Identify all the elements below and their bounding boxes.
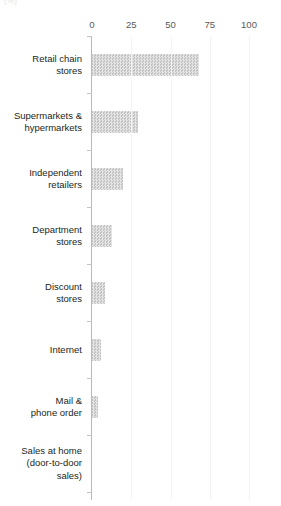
- bar-chart: (%) 0255075100 Retail chain storesSuperm…: [0, 0, 281, 506]
- bar-row: Internet: [0, 321, 281, 378]
- bar-row: Sales at home (door-to-door sales): [0, 435, 281, 492]
- bar-row: Discount stores: [0, 264, 281, 321]
- category-label: Department stores: [0, 223, 82, 248]
- bar: [92, 168, 123, 190]
- x-tick-label-75: 75: [204, 19, 215, 31]
- bar: [92, 225, 112, 247]
- y-axis-tick: [87, 492, 92, 493]
- y-axis-tick: [87, 36, 92, 37]
- x-tick-label-50: 50: [165, 19, 176, 31]
- y-axis-tick: [87, 321, 92, 322]
- gridline-100: [249, 36, 250, 500]
- bar-row: Supermarkets & hypermarkets: [0, 93, 281, 150]
- bar-row: Mail & phone order: [0, 378, 281, 435]
- plot-area: Retail chain storesSupermarkets & hyperm…: [0, 36, 281, 500]
- bar: [92, 339, 101, 361]
- bar-row: Department stores: [0, 207, 281, 264]
- y-axis-tick: [87, 207, 92, 208]
- x-axis-tick-labels: 0255075100: [0, 19, 281, 33]
- category-label: Retail chain stores: [0, 52, 82, 77]
- bar-row: Retail chain stores: [0, 36, 281, 93]
- bar: [92, 282, 105, 304]
- gridline-75: [210, 36, 211, 500]
- category-label: Independent retailers: [0, 166, 82, 191]
- y-axis-tick: [87, 378, 92, 379]
- category-label: Supermarkets & hypermarkets: [0, 109, 82, 134]
- y-axis-tick: [87, 93, 92, 94]
- y-axis-tick: [87, 435, 92, 436]
- bar-row: Independent retailers: [0, 150, 281, 207]
- y-axis-tick: [87, 264, 92, 265]
- bar: [92, 396, 98, 418]
- category-label: Mail & phone order: [0, 394, 82, 419]
- gridline-25: [131, 36, 132, 500]
- x-tick-label-0: 0: [89, 19, 94, 31]
- x-tick-label-100: 100: [241, 19, 257, 31]
- y-axis-tick: [87, 150, 92, 151]
- unit-label: (%): [4, 0, 17, 6]
- bar: [92, 54, 199, 76]
- category-label: Internet: [0, 343, 82, 356]
- category-label: Discount stores: [0, 280, 82, 305]
- gridline-50: [171, 36, 172, 500]
- category-label: Sales at home (door-to-door sales): [0, 445, 82, 483]
- x-tick-label-25: 25: [126, 19, 137, 31]
